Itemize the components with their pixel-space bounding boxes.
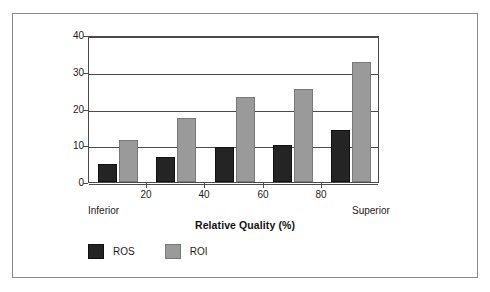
x-tick-mark-60: [263, 183, 264, 188]
y-tick-label-0: 0: [56, 178, 84, 188]
x-tick-label-80: 80: [301, 189, 341, 200]
y-tick-label-10: 10: [56, 141, 84, 151]
x-axis-title: Relative Quality (%): [0, 219, 490, 231]
bar-ros-60-80: [273, 145, 292, 182]
legend-swatch-ros: [88, 244, 104, 259]
x-tick-label-20: 20: [126, 189, 166, 200]
x-tick-mark-20: [146, 183, 147, 188]
legend-label-roi: ROI: [190, 246, 208, 257]
gridline-y-20: [89, 111, 378, 112]
y-tick-mark-0: [83, 183, 88, 184]
legend-item-ros[interactable]: ROS: [88, 244, 135, 259]
x-axis-endpoint-right: Superior: [352, 205, 390, 216]
bar-ros-40-60: [215, 147, 234, 182]
gridline-y-40: [89, 37, 378, 38]
x-tick-label-40: 40: [184, 189, 224, 200]
y-tick-label-40: 40: [56, 31, 84, 41]
legend-swatch-roi: [165, 244, 181, 259]
bar-ros-20-40: [156, 157, 175, 182]
legend-item-roi[interactable]: ROI: [165, 244, 208, 259]
x-tick-label-60: 60: [243, 189, 283, 200]
gridline-y-30: [89, 74, 378, 75]
bar-roi-60-80: [294, 89, 313, 182]
bar-ros-0-20: [98, 164, 117, 182]
bar-roi-20-40: [177, 118, 196, 182]
figure-root: 010203040 20406080 Inferior Superior Rel…: [0, 0, 490, 292]
x-tick-mark-40: [204, 183, 205, 188]
y-tick-label-30: 30: [56, 68, 84, 78]
x-axis-endpoint-left: Inferior: [88, 205, 119, 216]
y-axis-tick-labels: 010203040: [56, 30, 84, 190]
legend-label-ros: ROS: [113, 246, 135, 257]
bar-roi-80-100: [352, 62, 371, 182]
bar-ros-80-100: [331, 130, 350, 182]
plot-area: [88, 36, 379, 183]
gridline-y-0: [89, 184, 378, 185]
x-tick-mark-80: [321, 183, 322, 188]
y-tick-label-20: 20: [56, 105, 84, 115]
bar-roi-0-20: [119, 140, 138, 182]
chart-legend: ROSROI: [88, 244, 207, 259]
bar-roi-40-60: [236, 97, 255, 182]
